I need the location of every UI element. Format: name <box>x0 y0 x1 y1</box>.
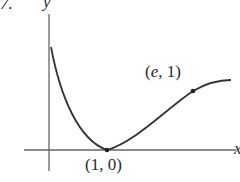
point-label-e-1: (e, 1) <box>145 63 181 80</box>
x-axis-label: x <box>234 140 240 157</box>
figure-number-text: 7. <box>0 0 13 13</box>
curve <box>51 47 231 150</box>
point-e-1-dot <box>191 89 196 94</box>
point-1-0-dot <box>105 148 110 153</box>
figure-number: 7. <box>0 0 13 12</box>
y-axis-label: y <box>43 0 51 10</box>
point-label-1-0: (1, 0) <box>85 156 122 173</box>
point-label-e-1-rest: , 1) <box>158 62 181 81</box>
